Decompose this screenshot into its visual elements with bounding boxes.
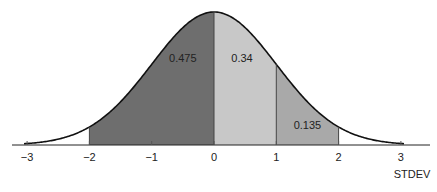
region-value-label: 0.475 <box>169 52 197 64</box>
x-tick-label: 0 <box>211 151 217 163</box>
x-tick-label: 1 <box>273 151 279 163</box>
normal-distribution-chart: −3−2−10123 0.4750.340.135 STDEV <box>0 0 437 192</box>
x-tick-label: 2 <box>336 151 342 163</box>
x-tick-label: −2 <box>83 151 96 163</box>
shaded-region <box>89 12 214 145</box>
region-value-label: 0.135 <box>294 119 322 131</box>
x-tick-label: 3 <box>398 151 404 163</box>
shaded-region <box>214 12 276 145</box>
x-tick-label: −3 <box>21 151 34 163</box>
x-tick-label: −1 <box>145 151 158 163</box>
region-value-label: 0.34 <box>231 52 252 64</box>
x-axis-label: STDEV <box>394 168 431 180</box>
